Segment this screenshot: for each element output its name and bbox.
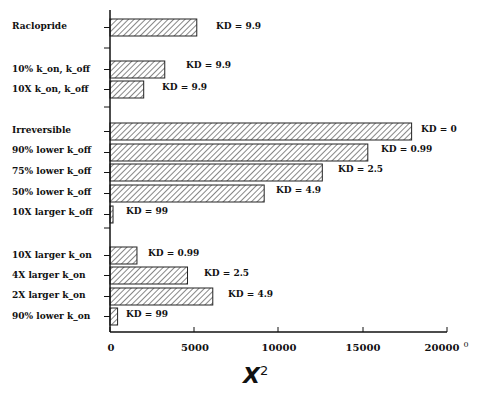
bar (110, 19, 197, 36)
kd-annotation: KD = 99 (126, 309, 168, 319)
category-label: Raclopride (12, 21, 67, 31)
category-label: 75% lower k_off (12, 166, 91, 176)
bar (110, 164, 322, 181)
category-label: 10% k_on, k_off (12, 64, 90, 74)
x-tick-label: 5000 (181, 342, 209, 353)
kd-annotation: KD = 4.9 (276, 185, 321, 195)
kd-annotation: KD = 0.99 (148, 248, 199, 258)
kd-annotation: KD = 9.9 (216, 21, 261, 31)
kd-annotation: KD = 2.5 (204, 268, 249, 278)
category-label: 90% lower k_on (12, 311, 90, 321)
category-label: 10X k_on, k_off (12, 84, 88, 94)
bar (110, 288, 213, 305)
kd-annotation: KD = 99 (126, 206, 168, 216)
kd-annotation: KD = 0 (421, 124, 457, 134)
x-tick-label: 10000 (262, 342, 297, 353)
kd-annotation: KD = 9.9 (186, 60, 231, 70)
kd-annotation: KD = 9.9 (162, 82, 207, 92)
bar (110, 247, 137, 264)
category-label: 2X larger k_on (12, 290, 86, 300)
x-ticks (110, 327, 447, 332)
x-tick-label: 0 (108, 342, 115, 353)
y-ticks (104, 28, 110, 317)
bar (110, 185, 264, 202)
x-axis-label: X2 (243, 363, 268, 388)
category-label: 10X larger k_on (12, 250, 92, 260)
bar (110, 123, 412, 140)
x-tick-label-stray: 0 (463, 340, 468, 349)
bar (110, 308, 118, 325)
bar-chart (0, 0, 477, 402)
bar (110, 144, 368, 161)
category-label: 10X larger k_off (12, 207, 93, 217)
category-label: 50% lower k_off (12, 187, 91, 197)
kd-annotation: KD = 4.9 (228, 289, 273, 299)
bar (110, 61, 165, 78)
category-label: Irreversible (12, 125, 71, 135)
bar (110, 267, 188, 284)
category-label: 90% lower k_off (12, 145, 91, 155)
kd-annotation: KD = 2.5 (338, 164, 383, 174)
category-label: 4X larger k_on (12, 270, 86, 280)
bar (110, 81, 144, 98)
x-tick-label: 15000 (346, 342, 381, 353)
kd-annotation: KD = 0.99 (381, 144, 432, 154)
x-tick-label: 20000 (425, 342, 460, 353)
